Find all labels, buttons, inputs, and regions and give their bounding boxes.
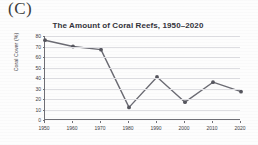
gridline: [45, 47, 240, 48]
y-tick-label: 0: [21, 117, 41, 123]
x-tick-label: 2020: [227, 125, 253, 131]
x-tick-mark: [44, 121, 45, 123]
x-tick-label: 1970: [87, 125, 113, 131]
y-tick-mark: [43, 89, 45, 90]
x-tick-label: 1990: [143, 125, 169, 131]
chart-title: The Amount of Coral Reefs, 1950–2020: [12, 21, 244, 30]
y-tick-label: 70: [21, 44, 41, 50]
y-tick-label: 20: [21, 96, 41, 102]
y-tick-label: 60: [21, 54, 41, 60]
gridline: [45, 78, 240, 79]
y-tick-mark: [43, 47, 45, 48]
panel-letter: (C): [8, 0, 32, 19]
y-tick-label: 30: [21, 86, 41, 92]
x-tick-mark: [100, 121, 101, 123]
chart-figure: The Amount of Coral Reefs, 1950–2020 Cor…: [12, 18, 244, 142]
data-point: [239, 90, 243, 94]
x-tick-mark: [72, 121, 73, 123]
x-tick-mark: [212, 121, 213, 123]
y-tick-label: 10: [21, 107, 41, 113]
x-tick-label: 1960: [59, 125, 85, 131]
gridline: [45, 89, 240, 90]
y-tick-mark: [43, 36, 45, 37]
x-tick-label: 1950: [31, 125, 57, 131]
gridline: [45, 110, 240, 111]
gridline: [45, 99, 240, 100]
gridline: [45, 57, 240, 58]
y-tick-mark: [43, 99, 45, 100]
plot-area: [44, 36, 240, 120]
data-point: [211, 80, 215, 84]
x-tick-label: 2010: [199, 125, 225, 131]
y-tick-mark: [43, 57, 45, 58]
x-tick-mark: [240, 121, 241, 123]
x-tick-label: 1980: [115, 125, 141, 131]
y-tick-mark: [43, 110, 45, 111]
y-tick-label: 80: [21, 33, 41, 39]
x-tick-label: 2000: [171, 125, 197, 131]
y-axis-label: Coral Cover (%): [13, 22, 19, 82]
x-tick-mark: [128, 121, 129, 123]
series-polyline: [45, 40, 241, 107]
data-point: [183, 100, 187, 104]
y-axis-ticks: 80706050403020100: [21, 36, 41, 120]
figure-panel: (C) The Amount of Coral Reefs, 1950–2020…: [0, 0, 258, 145]
gridline: [45, 68, 240, 69]
y-tick-mark: [43, 68, 45, 69]
plot-area-wrapper: Coral Cover (%) 80706050403020100 195019…: [12, 36, 244, 142]
x-tick-mark: [156, 121, 157, 123]
y-tick-label: 50: [21, 65, 41, 71]
x-tick-mark: [184, 121, 185, 123]
data-point: [43, 38, 47, 42]
gridline: [45, 36, 240, 37]
y-tick-mark: [43, 78, 45, 79]
y-tick-label: 40: [21, 75, 41, 81]
data-point: [99, 48, 103, 52]
x-axis-ticks: 19501960197019801990200020102020: [44, 121, 240, 137]
